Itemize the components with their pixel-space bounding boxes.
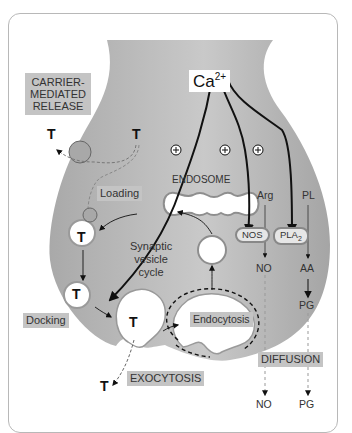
endocytosis-label: Endocytosis [190, 312, 253, 327]
recycled-vesicle [198, 236, 226, 264]
fusing-vesicle-label: T [129, 315, 138, 329]
loading-vesicle-label: T [77, 230, 86, 244]
transmitter-in-label: T [132, 127, 141, 141]
plus-icon [253, 145, 263, 155]
nos-enzyme: NOS [235, 227, 270, 243]
released-transmitter-label: T [100, 379, 109, 393]
plus-icon [220, 145, 230, 155]
carrier-protein [69, 141, 91, 163]
plus-icon [171, 145, 181, 155]
endosome-label: ENDOSOME [172, 175, 230, 185]
docked-vesicle-label: T [72, 287, 81, 301]
pg-inside-label: PG [299, 300, 314, 311]
no-outside-label: NO [256, 399, 272, 410]
loading-carrier [83, 208, 97, 222]
pl-label: PL [302, 190, 315, 201]
synaptic-vesicle-cycle-label: Synaptic vesicle cycle [130, 240, 172, 279]
docking-label: Docking [23, 313, 69, 328]
aa-label: AA [300, 263, 314, 274]
loading-label: Loading [97, 186, 142, 201]
carrier-mediated-release-label: CARRIER- MEDIATED RELEASE [25, 73, 91, 115]
diffusion-label: DIFFUSION [258, 352, 323, 367]
calcium-label: Ca2+ [189, 70, 230, 92]
no-inside-label: NO [256, 263, 272, 274]
pg-outside-label: PG [299, 399, 314, 410]
arg-label: Arg [257, 190, 273, 201]
exocytosis-label: EXOCYTOSIS [127, 371, 204, 386]
pla2-enzyme: PLA2 [273, 227, 309, 245]
transmitter-out-label: T [47, 127, 56, 141]
